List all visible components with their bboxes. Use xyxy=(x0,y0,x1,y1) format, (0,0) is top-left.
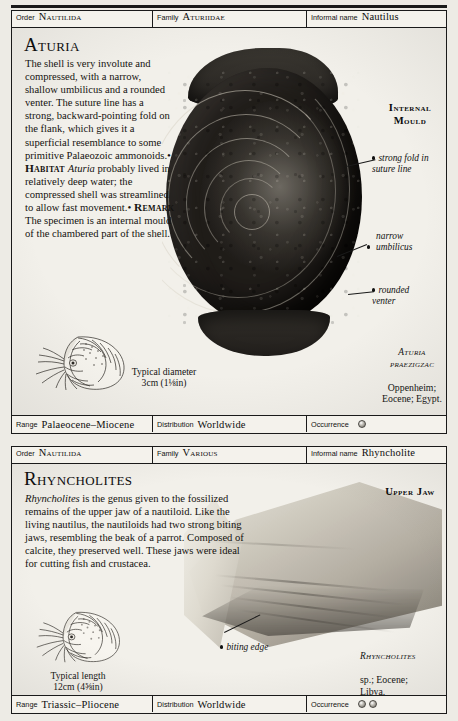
header-field-family: Family Various xyxy=(153,447,307,463)
specimen-caption-rhyncholites: Rhyncholites sp.; Eocene; Libya. xyxy=(360,640,446,695)
range-label: Range xyxy=(16,420,38,429)
specimen-caption-aturia: Aturia praezigzac Oppenheim; Eocene; Egy… xyxy=(360,336,446,404)
entry-header-rhyncholites: Order Nautilida Family Various Informal … xyxy=(12,447,446,464)
specimen-details: Oppenheim; Eocene; Egypt. xyxy=(382,382,442,404)
callout-upper-jaw: Upper Jaw xyxy=(360,486,446,499)
order-value: Nautilida xyxy=(39,447,82,458)
callout-narrow-umbilicus-dot xyxy=(367,242,377,253)
description-run-5: • xyxy=(127,201,134,213)
header-field-family: Family Aturiidae xyxy=(153,11,307,27)
ammonite-disc xyxy=(166,68,362,326)
distribution-value: Worldwide xyxy=(198,699,246,710)
description-run-0: The shell is very involute and compresse… xyxy=(25,58,170,161)
footer-field-distribution: Distribution Worldwide xyxy=(153,416,307,432)
description-run-7: The specimen is an internal mould of the… xyxy=(25,215,171,239)
header-field-informal-name: Informal name Nautilus xyxy=(307,11,446,27)
informal-name-value: Nautilus xyxy=(362,11,399,22)
informal-name-label: Informal name xyxy=(311,449,358,458)
specimen-species-name: Rhyncholites xyxy=(360,651,446,662)
fossil-grain-texture xyxy=(166,68,362,326)
header-field-order: Order Nautilida xyxy=(12,447,153,463)
description-run-0: Rhyncholites xyxy=(25,493,80,504)
order-label: Order xyxy=(16,13,35,22)
occurrence-label: Occurrence xyxy=(311,700,349,709)
distribution-value: Worldwide xyxy=(198,419,246,430)
description-run-1: • xyxy=(167,149,171,161)
informal-name-label: Informal name xyxy=(311,13,358,22)
family-value: Aturiidae xyxy=(183,11,225,22)
family-label: Family xyxy=(157,449,179,458)
footer-field-distribution: Distribution Worldwide xyxy=(153,696,307,712)
page-title-rhyncholites: Rhyncholites xyxy=(24,468,132,490)
occurrence-dot-icon xyxy=(358,700,366,708)
callout-biting-edge-text: biting edge xyxy=(226,642,268,652)
family-label: Family xyxy=(157,13,179,22)
callout-rounded-venter-text: rounded venter xyxy=(372,285,409,306)
range-value: Triassic–Pliocene xyxy=(42,699,120,710)
entry-footer-rhyncholites: Range Triassic–Pliocene Distribution Wor… xyxy=(12,695,446,712)
ammonite-lower-whorl xyxy=(198,310,330,356)
entry-footer-aturia: Range Palaeocene–Miocene Distribution Wo… xyxy=(12,415,446,432)
occurrence-dot-icon xyxy=(358,420,366,428)
header-field-order: Order Nautilida xyxy=(12,11,153,27)
header-field-informal-name: Informal name Rhyncholite xyxy=(307,447,446,463)
occurrence-label: Occurrence xyxy=(311,420,349,429)
description-run-1: is the genus given to the fossilized rem… xyxy=(25,493,244,569)
scale-caption-rhyncholites: Typical length 12cm (4⅝in) xyxy=(26,670,130,693)
entry-header-aturia: Order Nautilida Family Aturiidae Informa… xyxy=(12,11,446,28)
footer-field-occurrence: Occurrence xyxy=(307,416,446,432)
description-run-6: Remark xyxy=(134,201,174,213)
occurrence-dot-icon xyxy=(369,700,377,708)
description-run-3: Aturia xyxy=(68,163,95,174)
family-value: Various xyxy=(183,447,218,458)
entry-body-aturia: Aturia The shell is very involute and co… xyxy=(12,28,446,415)
callout-rounded-venter: rounded venter xyxy=(372,285,446,307)
order-label: Order xyxy=(16,449,35,458)
callout-biting-edge: biting edge xyxy=(220,642,300,653)
callout-strong-fold-in-suture-line: strong fold in suture line xyxy=(372,153,446,175)
range-value: Palaeocene–Miocene xyxy=(42,419,135,430)
fossil-entry-aturia: Order Nautilida Family Aturiidae Informa… xyxy=(11,10,447,434)
book-page: Order Nautilida Family Aturiidae Informa… xyxy=(0,0,458,721)
nautilus-line-drawing-icon xyxy=(26,604,134,666)
leader-dot-icon xyxy=(220,645,223,648)
occurrence-icons-rhyncholites xyxy=(358,700,377,708)
description-aturia: The shell is very involute and compresse… xyxy=(25,57,175,240)
page-top-rule xyxy=(11,5,447,8)
distribution-label: Distribution xyxy=(157,420,194,429)
callout-strong-fold-text: strong fold in suture line xyxy=(372,153,429,174)
entry-body-rhyncholites: Rhyncholites Rhyncholites is the genus g… xyxy=(12,464,446,695)
callout-internal-mould: Internal Mould xyxy=(362,102,446,127)
distribution-label: Distribution xyxy=(157,700,194,709)
occurrence-icons-aturia xyxy=(358,420,366,428)
fossil-entry-rhyncholites: Order Nautilida Family Various Informal … xyxy=(11,446,447,714)
leader-dot-icon xyxy=(367,245,370,248)
description-run-2: Habitat xyxy=(25,162,68,174)
footer-field-range: Range Palaeocene–Miocene xyxy=(12,416,153,432)
footer-field-occurrence: Occurrence xyxy=(307,696,446,712)
specimen-details: sp.; Eocene; Libya. xyxy=(360,674,408,695)
specimen-species-name: Aturia praezigzac xyxy=(360,347,446,370)
range-label: Range xyxy=(16,700,38,709)
description-rhyncholites: Rhyncholites is the genus given to the f… xyxy=(25,492,247,571)
ammonite-fossil-photo xyxy=(162,42,374,394)
informal-name-value: Rhyncholite xyxy=(362,447,416,458)
callout-narrow-umbilicus: narrow umbilicus xyxy=(376,231,446,253)
page-title-aturia: Aturia xyxy=(24,34,80,56)
order-value: Nautilida xyxy=(39,11,82,22)
footer-field-range: Range Triassic–Pliocene xyxy=(12,696,153,712)
callout-narrow-umbilicus-text: narrow umbilicus xyxy=(376,231,412,252)
scale-caption-aturia: Typical diameter 3cm (1⅛in) xyxy=(112,366,216,389)
